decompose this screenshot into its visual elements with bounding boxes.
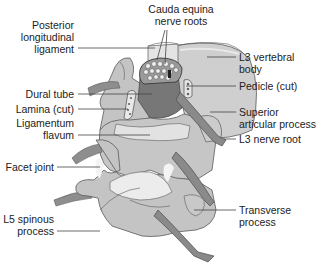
label-line: Ligamentum — [0, 117, 74, 129]
label-transverse: Transverse process — [239, 204, 291, 228]
label-lamina: Lamina (cut) — [0, 103, 74, 115]
label-dural-tube: Dural tube — [0, 88, 74, 100]
label-l5-spinous: L5 spinous process — [0, 213, 54, 237]
label-line: Transverse — [239, 204, 291, 216]
spine-diagram: Cauda equina nerve roots Posterior longi… — [0, 0, 316, 265]
label-facet-joint: Facet joint — [0, 161, 54, 173]
label-l3-nerve-root: L3 nerve root — [239, 133, 301, 145]
label-line: nerve roots — [137, 15, 225, 27]
label-cauda-equina: Cauda equina nerve roots — [137, 3, 225, 27]
label-line: ligament — [0, 43, 74, 55]
label-line: L5 spinous — [0, 213, 54, 225]
label-line: articular process — [239, 118, 316, 130]
label-line: body — [239, 63, 294, 75]
label-line: L3 vertebral — [239, 51, 294, 63]
label-line: Pedicle (cut) — [239, 80, 297, 92]
label-line: Posterior — [0, 19, 74, 31]
label-line: L3 nerve root — [239, 133, 301, 145]
label-line: Dural tube — [0, 88, 74, 100]
pedicle-cut — [184, 80, 192, 99]
label-line: Cauda equina — [137, 3, 225, 15]
label-pedicle: Pedicle (cut) — [239, 80, 297, 92]
label-line: Facet joint — [0, 161, 54, 173]
label-posterior-ligament: Posterior longitudinal ligament — [0, 19, 74, 55]
label-line: Lamina (cut) — [0, 103, 74, 115]
label-line: Superior — [239, 106, 316, 118]
label-line: longitudinal — [0, 31, 74, 43]
label-line: process — [239, 216, 291, 228]
label-line: flavum — [0, 129, 74, 141]
label-l3-body: L3 vertebral body — [239, 51, 294, 75]
cauda-equina-cross-section — [140, 58, 183, 84]
label-superior-articular: Superior articular process — [239, 106, 316, 130]
label-line: process — [0, 225, 54, 237]
label-ligamentum-flavum: Ligamentum flavum — [0, 117, 74, 141]
